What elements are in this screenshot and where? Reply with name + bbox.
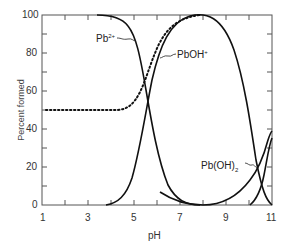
x-axis-label: pH bbox=[148, 230, 161, 241]
annotation-pboh2: Pb(OH)2 bbox=[201, 160, 238, 173]
plot-frame bbox=[42, 15, 272, 205]
speciation-chart bbox=[0, 0, 285, 246]
x-tick-9: 9 bbox=[223, 213, 229, 223]
series-pboh3-line bbox=[250, 138, 272, 205]
annotation-pb2: Pb2+ bbox=[96, 33, 115, 44]
x-ticks bbox=[65, 15, 249, 205]
y-tick-20: 20 bbox=[26, 162, 37, 172]
series-dotted-line bbox=[46, 15, 200, 110]
x-tick-5: 5 bbox=[131, 213, 137, 223]
y-axis-label: Percent formed bbox=[16, 75, 26, 145]
x-tick-7: 7 bbox=[177, 213, 183, 223]
y-tick-60: 60 bbox=[26, 86, 37, 96]
x-tick-1: 1 bbox=[40, 213, 46, 223]
y-tick-0: 0 bbox=[32, 200, 38, 210]
y-tick-80: 80 bbox=[26, 48, 37, 58]
x-tick-3: 3 bbox=[85, 213, 91, 223]
y-tick-100: 100 bbox=[22, 10, 39, 20]
pb2-leader bbox=[117, 38, 136, 41]
y-tick-40: 40 bbox=[26, 124, 37, 134]
annotation-pboh: PbOH+ bbox=[177, 49, 208, 60]
pboh-leader bbox=[160, 54, 176, 58]
pboh2-leader bbox=[245, 163, 257, 168]
series-pboh-line bbox=[106, 15, 272, 205]
x-tick-11: 11 bbox=[266, 213, 276, 223]
